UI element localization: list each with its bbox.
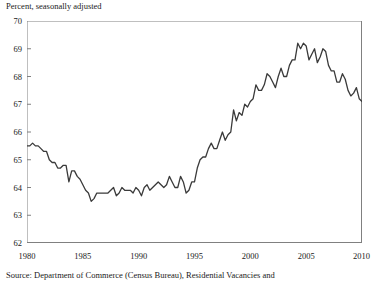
- y-tick-label-68: 68: [2, 73, 22, 82]
- x-tick-label-1995: 1995: [175, 252, 215, 261]
- y-tick-label-62: 62: [2, 239, 22, 248]
- x-tick-label-2005: 2005: [286, 252, 326, 261]
- chart-figure: Percent, seasonally adjusted: [0, 0, 383, 285]
- y-tick-label-64: 64: [2, 184, 22, 193]
- y-tick-marks: [27, 49, 31, 216]
- y-tick-label-63: 63: [2, 211, 22, 220]
- y-tick-label-65: 65: [2, 156, 22, 165]
- y-tick-label-69: 69: [2, 45, 22, 54]
- plot-area: [27, 21, 362, 243]
- source-note: Source: Department of Commerce (Census B…: [6, 270, 275, 281]
- x-tick-label-2000: 2000: [230, 252, 270, 261]
- x-tick-label-2010: 2010: [342, 252, 382, 261]
- x-tick-label-1990: 1990: [119, 252, 159, 261]
- line-chart-svg: [27, 21, 362, 243]
- x-tick-label-1980: 1980: [7, 252, 47, 261]
- y-tick-label-66: 66: [2, 128, 22, 137]
- x-tick-label-1985: 1985: [63, 252, 103, 261]
- y-tick-label-70: 70: [2, 17, 22, 26]
- y-tick-label-67: 67: [2, 100, 22, 109]
- series-line-homeownership-rate: [27, 43, 362, 201]
- chart-subtitle: Percent, seasonally adjusted: [6, 1, 102, 12]
